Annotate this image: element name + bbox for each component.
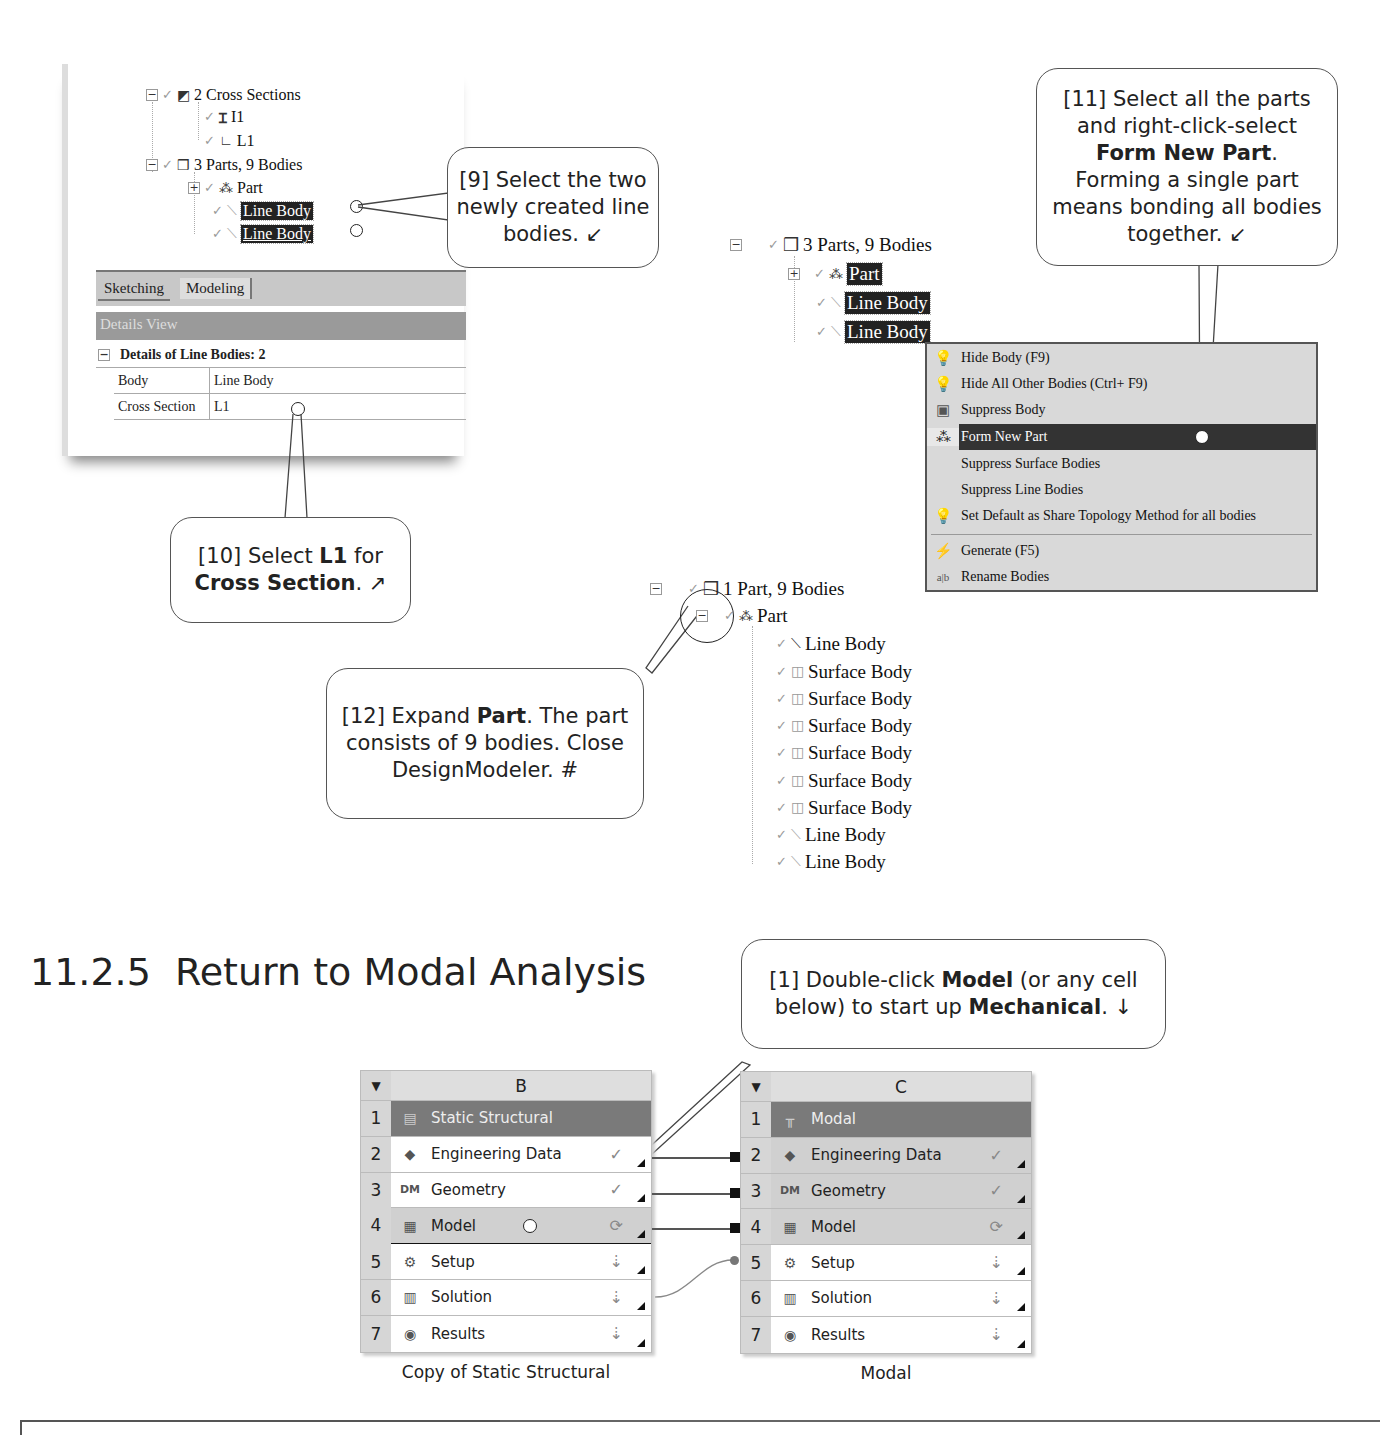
tree-node-parts[interactable]: − ✓ ❒ 3 Parts, 9 Bodies [730,232,932,258]
cell-results[interactable]: 7◉Results⇣ [741,1317,1031,1353]
tree-node-body[interactable]: ✓◫Surface Body [776,658,912,685]
surface-body-icon: ◫ [791,772,804,789]
callout-marker [523,1219,537,1233]
results-icon: ◉ [399,1326,421,1342]
system-c-caption[interactable]: Modal [740,1363,1032,1383]
status-check-icon: ✓ [610,1145,623,1164]
status-check-icon: ✓ [990,1146,1003,1165]
callout-step-12: [12] Expand Part. The part consists of 9… [326,668,644,819]
cell-geometry[interactable]: 3DMGeometry✓ [741,1174,1031,1210]
callout-step-10: [10] Select L1 for Cross Section. ↗ [170,517,411,623]
callout-step-1: [1] Double-click Model (or any cell belo… [741,939,1166,1049]
status-check-icon: ✓ [990,1181,1003,1200]
tree-node-parts[interactable]: − ✓ ❒ 1 Part, 9 Bodies [650,576,844,602]
line-body-icon: ⟍ [831,295,841,311]
tree-node-body[interactable]: ✓⟍Line Body [776,630,886,657]
setup-icon: ⚙ [399,1254,421,1270]
tree-node-line-body-1[interactable]: ✓ ⟍ Line Body [816,289,930,317]
collapse-icon[interactable]: − [730,239,742,251]
cell-setup[interactable]: 5⚙Setup⇣ [741,1245,1031,1281]
suppress-icon: ▣ [927,401,959,419]
tree-node-body[interactable]: ✓◫Surface Body [776,739,912,766]
dm-geometry-icon: DM [399,1183,421,1196]
menu-item-hide-body[interactable]: 💡 Hide Body (F9) [927,345,1316,371]
section-heading: 11.2.5 Return to Modal Analysis [30,950,646,994]
surface-body-icon: ◫ [791,744,804,761]
cell-static-structural[interactable]: 1▤Static Structural [361,1101,651,1137]
status-update-icon: ⇣ [990,1325,1003,1344]
callout-marker [1195,430,1209,444]
menu-item-suppress-line-bodies[interactable]: Suppress Line Bodies [927,477,1316,503]
status-update-icon: ⇣ [610,1252,623,1271]
lightbulb-icon: 💡 [927,375,959,393]
context-menu: 💡 Hide Body (F9) 💡 Hide All Other Bodies… [925,342,1318,592]
part-icon: ⁂ [739,608,753,625]
link-engineering-data [652,1157,732,1159]
system-menu-arrow[interactable]: ▼ [741,1072,771,1101]
cell-setup[interactable]: 5⚙Setup⇣ [361,1244,651,1280]
status-refresh-icon: ⟳ [990,1217,1003,1236]
menu-separator [931,534,1312,535]
expand-icon[interactable]: + [788,268,800,280]
tree-node-body[interactable]: ✓◫Surface Body [776,685,912,712]
tree-bottom-right: − ✓ ❒ 1 Part, 9 Bodies − ✓ ⁂ Part ✓⟍Line… [650,574,950,884]
static-structural-icon: ▤ [399,1110,421,1126]
menu-item-form-new-part[interactable]: ⁂ Form New Part [927,424,1316,450]
model-icon: ▦ [779,1219,801,1235]
results-icon: ◉ [779,1327,801,1343]
engineering-data-icon: ◆ [779,1147,801,1163]
surface-body-icon: ◫ [791,690,804,707]
cell-engineering-data[interactable]: 2◆Engineering Data✓ [741,1138,1031,1174]
system-menu-arrow[interactable]: ▼ [361,1071,391,1100]
cell-results[interactable]: 7◉Results⇣ [361,1316,651,1352]
cell-solution[interactable]: 6▥Solution⇣ [361,1280,651,1316]
parts-icon: ❒ [783,234,799,256]
status-update-icon: ⇣ [990,1289,1003,1308]
status-update-icon: ⇣ [610,1324,623,1343]
check-icon: ✓ [814,266,825,282]
callout-step-11: [11] Select all the parts and right-clic… [1036,68,1338,266]
status-update-icon: ⇣ [610,1288,623,1307]
modal-icon: ╥ [779,1111,801,1127]
menu-item-generate[interactable]: ⚡ Generate (F5) [927,538,1316,564]
check-icon: ✓ [816,295,827,311]
menu-item-hide-all-other-bodies[interactable]: 💡 Hide All Other Bodies (Ctrl+ F9) [927,371,1316,397]
status-refresh-icon: ⟳ [610,1216,623,1235]
line-body-icon: ⟍ [791,636,801,652]
surface-body-icon: ◫ [791,717,804,734]
cell-model[interactable]: 4▦Model⟳ [741,1209,1031,1245]
solution-icon: ▥ [399,1289,421,1305]
lightbulb-icon: 💡 [927,507,959,525]
cell-engineering-data[interactable]: 2◆Engineering Data✓ [361,1137,651,1173]
system-b-caption[interactable]: Copy of Static Structural [360,1362,652,1382]
cell-solution[interactable]: 6▥Solution⇣ [741,1281,1031,1317]
status-update-icon: ⇣ [990,1253,1003,1272]
tree-node-body[interactable]: ✓◫Surface Body [776,794,912,821]
menu-item-set-default-share-topology[interactable]: 💡 Set Default as Share Topology Method f… [927,503,1316,529]
menu-item-rename-bodies[interactable]: a|b Rename Bodies [927,564,1316,590]
cell-modal[interactable]: 1╥Modal [741,1102,1031,1138]
tree-node-body[interactable]: ✓⟍Line Body [776,821,886,848]
tree-node-body[interactable]: ✓◫Surface Body [776,712,912,739]
menu-item-suppress-surface-bodies[interactable]: Suppress Surface Bodies [927,451,1316,477]
cell-model[interactable]: ▦Model⟳ [391,1208,651,1244]
line-body-icon: ⟍ [831,324,841,340]
tree-node-body[interactable]: ✓◫Surface Body [776,767,912,794]
link-solution-to-setup [730,1256,739,1265]
cell-geometry[interactable]: 3DMGeometry✓ [361,1173,651,1209]
engineering-data-icon: ◆ [399,1146,421,1162]
menu-item-suppress-body[interactable]: ▣ Suppress Body [927,397,1316,423]
tree-node-part[interactable]: + ✓ ⁂ Part [788,260,882,288]
dm-geometry-icon: DM [779,1184,801,1197]
page-rule [20,1420,500,1422]
system-c-block: ▼ C 1╥Modal 2◆Engineering Data✓ 3DMGeome… [740,1071,1032,1354]
system-b-block: ▼ B 1▤Static Structural 2◆Engineering Da… [360,1070,652,1353]
line-body-icon: ⟍ [791,854,801,870]
link-model [652,1228,732,1230]
collapse-icon[interactable]: − [650,583,662,595]
surface-body-icon: ◫ [791,663,804,680]
row-number: 4 [361,1207,391,1242]
tree-node-body[interactable]: ✓⟍Line Body [776,848,886,875]
generate-icon: ⚡ [927,542,959,560]
tree-node-line-body-2[interactable]: ✓ ⟍ Line Body [816,318,930,346]
